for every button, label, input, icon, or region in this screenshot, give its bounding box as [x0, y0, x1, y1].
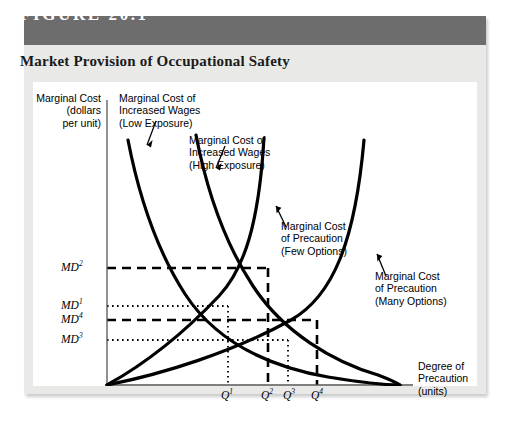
plot-panel: Marginal Cost (dollars per unit) Margina… — [33, 82, 477, 386]
figure-number-label: FIGURE 20.1 — [20, 5, 149, 25]
x-tick-q3: Q3 — [283, 389, 295, 401]
y-tick-md1: MD1 — [61, 299, 83, 311]
y-tick-md4: MD4 — [61, 313, 83, 325]
y-axis-label: Marginal Cost (dollars per unit) — [9, 92, 101, 129]
curves — [107, 135, 400, 385]
figure-title-label: Market Provision of Occupational Safety — [20, 53, 290, 70]
x-tick-q1: Q1 — [221, 389, 233, 401]
curve-label-precaution-few: Marginal Cost of Precaution (Few Options… — [281, 220, 387, 257]
y-tick-md3: MD3 — [61, 333, 83, 345]
curve-label-wage-low: Marginal Cost of Increased Wages (Low Ex… — [119, 92, 239, 129]
curve-wage-high-exposure — [196, 135, 400, 385]
x-axis-label: Degree of Precaution (units) — [418, 360, 498, 397]
x-tick-q2: Q2 — [261, 389, 273, 401]
figure-page: FIGURE 20.1 Market Provision of Occupati… — [0, 0, 512, 444]
y-tick-md2: MD2 — [61, 261, 83, 273]
curve-label-precaution-many: Marginal Cost of Precaution (Many Option… — [375, 270, 485, 307]
x-tick-q4: Q4 — [311, 389, 323, 401]
curve-label-wage-high: Marginal Cost of Increased Wages (High E… — [189, 134, 311, 171]
curve-precaution-many-options — [107, 140, 364, 385]
